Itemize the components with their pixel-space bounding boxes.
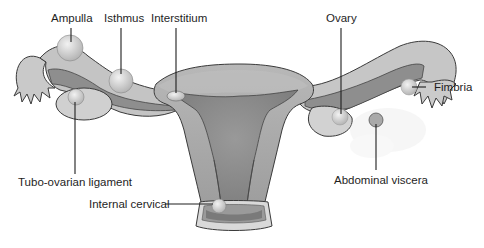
label-ovary: Ovary <box>326 12 357 24</box>
ectopic-pregnancy-sites-diagram: Ampulla Isthmus Interstitium Ovary Fimbr… <box>0 0 484 248</box>
cervical-site <box>212 199 226 213</box>
label-tubo-ovarian-ligament: Tubo-ovarian ligament <box>18 176 133 188</box>
abdominal-viscera-texture <box>350 108 426 158</box>
left-fallopian-tube <box>14 46 178 120</box>
ampulla-site <box>57 35 83 61</box>
label-fimbria: Fimbria <box>434 81 473 93</box>
label-abdominal-viscera: Abdominal viscera <box>334 174 429 186</box>
ovary-site <box>332 109 348 125</box>
label-ampulla: Ampulla <box>51 12 93 24</box>
tubo-ovarian-site <box>68 89 84 105</box>
label-interstitium: Interstitium <box>151 12 207 24</box>
label-internal-cervical: Internal cervical <box>89 198 170 210</box>
uterus <box>154 64 313 231</box>
label-isthmus: Isthmus <box>104 12 145 24</box>
